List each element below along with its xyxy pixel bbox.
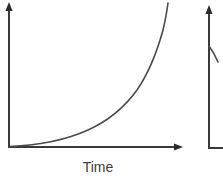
- figure-container: Time: [0, 0, 223, 180]
- exponential-growth-chart: Time: [0, 0, 223, 180]
- chart-background: [0, 0, 223, 180]
- x-axis-label: Time: [83, 159, 114, 175]
